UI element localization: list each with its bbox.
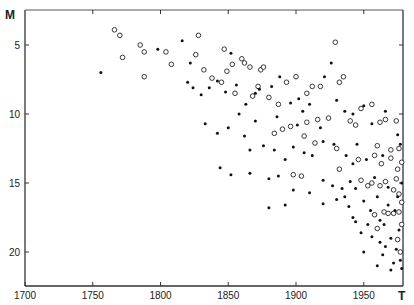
open-circle-marker <box>280 127 285 132</box>
filled-dot-marker <box>343 110 346 113</box>
scatter-chart: 1700175018001850190019505101520 M T <box>0 0 414 305</box>
open-circle-marker <box>250 94 255 99</box>
open-circle-marker <box>359 106 364 111</box>
filled-dot-marker <box>216 79 219 82</box>
filled-dot-marker <box>289 101 292 104</box>
open-circle-marker <box>164 50 169 55</box>
filled-dot-marker <box>322 179 325 182</box>
filled-dot-marker <box>351 216 354 219</box>
open-circle-marker <box>334 146 339 151</box>
filled-dot-marker <box>387 186 390 189</box>
filled-dot-marker <box>208 86 211 89</box>
open-circle-marker <box>399 200 404 205</box>
filled-dot-marker <box>292 146 295 149</box>
open-circle-marker <box>196 33 201 38</box>
open-circle-marker <box>302 134 307 139</box>
filled-dot-marker <box>370 235 373 238</box>
filled-dot-marker <box>400 267 403 270</box>
filled-dot-marker <box>296 124 299 127</box>
open-circle-marker <box>389 156 394 161</box>
open-circle-marker <box>394 119 399 124</box>
filled-dot-marker <box>224 90 227 93</box>
open-circle-marker <box>310 84 315 89</box>
open-circle-marker <box>305 120 310 125</box>
open-circle-marker <box>383 117 388 122</box>
x-tick-label: 1850 <box>217 290 240 301</box>
filled-dot-marker <box>351 162 354 165</box>
filled-dot-marker <box>343 195 346 198</box>
open-circle-marker <box>267 95 272 100</box>
open-circle-marker <box>326 116 331 121</box>
filled-dot-marker <box>370 122 373 125</box>
open-circle-marker <box>202 68 207 73</box>
filled-dot-marker <box>254 119 257 122</box>
open-circle-marker <box>240 57 245 62</box>
y-tick-label: 5 <box>14 40 20 51</box>
filled-dot-marker <box>244 103 247 106</box>
open-circle-marker <box>225 69 230 74</box>
filled-dot-marker <box>379 241 382 244</box>
x-tick-label: 1900 <box>285 290 308 301</box>
open-circle-marker <box>291 172 296 177</box>
filled-dot-marker <box>381 154 384 157</box>
open-circle-marker <box>372 212 377 217</box>
filled-dot-marker <box>355 143 358 146</box>
open-circle-marker <box>248 65 253 70</box>
x-tick-label: 1750 <box>82 290 105 301</box>
filled-dot-marker <box>400 182 403 185</box>
open-circle-marker <box>397 210 402 215</box>
filled-dot-marker <box>186 81 189 84</box>
open-circle-marker <box>356 157 361 162</box>
open-circle-marker <box>118 33 123 38</box>
filled-dot-marker <box>399 143 402 146</box>
open-circle-marker <box>315 117 320 122</box>
filled-dot-marker <box>323 75 326 78</box>
open-circle-marker <box>138 43 143 48</box>
filled-dot-marker <box>277 175 280 178</box>
filled-dot-marker <box>262 144 265 147</box>
open-circle-marker <box>337 167 342 172</box>
filled-dot-marker <box>341 187 344 190</box>
filled-dot-marker <box>362 251 365 254</box>
plot-frame <box>25 10 403 286</box>
open-circle-marker <box>378 183 383 188</box>
filled-dot-marker <box>238 113 241 116</box>
open-circle-marker <box>391 188 396 193</box>
filled-dot-marker <box>331 184 334 187</box>
open-circle-marker <box>169 62 174 67</box>
filled-dot-marker <box>322 202 325 205</box>
open-circle-marker <box>272 131 277 136</box>
filled-dot-marker <box>362 104 365 107</box>
filled-dot-marker <box>384 110 387 113</box>
filled-dot-marker <box>319 126 322 129</box>
open-circle-marker <box>142 74 147 79</box>
y-axis-label: M <box>5 8 15 22</box>
filled-dot-marker <box>258 88 261 91</box>
open-circle-marker <box>230 62 235 67</box>
filled-dot-marker <box>366 223 369 226</box>
open-circle-marker <box>375 143 380 148</box>
x-tick-label: 1800 <box>149 290 172 301</box>
open-circle-marker <box>395 237 400 242</box>
filled-dot-marker <box>362 199 365 202</box>
open-circle-marker <box>386 211 391 216</box>
filled-dot-marker <box>235 84 238 87</box>
filled-dot-marker <box>397 228 400 231</box>
filled-dot-marker <box>322 140 325 143</box>
filled-dot-marker <box>267 206 270 209</box>
filled-dot-marker <box>99 71 102 74</box>
filled-dot-marker <box>267 177 270 180</box>
filled-dot-marker <box>330 61 333 64</box>
filled-dot-marker <box>192 86 195 89</box>
filled-dot-marker <box>393 209 396 212</box>
y-tick-label: 20 <box>9 247 21 258</box>
filled-dot-marker <box>383 223 386 226</box>
filled-dot-marker <box>243 135 246 138</box>
open-circle-marker <box>142 50 147 55</box>
open-circle-marker <box>397 146 402 151</box>
filled-dot-marker <box>254 92 257 95</box>
open-circle-marker <box>375 226 380 231</box>
open-circle-marker <box>210 76 215 81</box>
open-circle-marker <box>395 167 400 172</box>
open-circle-marker <box>288 124 293 129</box>
